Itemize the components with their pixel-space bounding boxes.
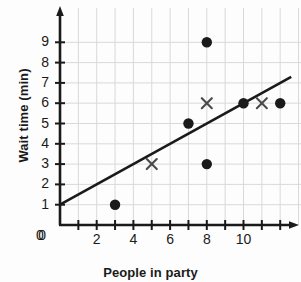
data-point-dot — [275, 98, 285, 108]
data-point-dot — [183, 118, 193, 128]
data-point-dot — [202, 159, 212, 169]
y-tick-label: 6 — [33, 94, 49, 110]
x-tick-label: 4 — [123, 231, 143, 247]
y-tick-label: 7 — [33, 74, 49, 90]
y-tick-label: 4 — [33, 135, 49, 151]
x-tick-label: 8 — [197, 231, 217, 247]
scatter-plot-chart: 0123456789 0246810 Wait time (min) Peopl… — [0, 0, 301, 282]
y-tick-label: 3 — [33, 155, 49, 171]
x-axis-title: People in party — [0, 265, 301, 280]
y-tick-label: 9 — [33, 33, 49, 49]
data-point-dot — [110, 200, 120, 210]
x-tick-label: 0 — [30, 227, 50, 243]
data-point-dot — [202, 37, 212, 47]
y-tick-label: 5 — [33, 115, 49, 131]
x-tick-label: 2 — [87, 231, 107, 247]
x-tick-label: 10 — [234, 231, 254, 247]
y-tick-label: 1 — [33, 196, 49, 212]
y-tick-label: 2 — [33, 175, 49, 191]
data-point-dot — [238, 98, 248, 108]
x-tick-label: 6 — [160, 231, 180, 247]
y-axis-title: Wait time (min) — [16, 46, 31, 186]
plot-background — [60, 8, 301, 225]
y-tick-label: 8 — [33, 54, 49, 70]
